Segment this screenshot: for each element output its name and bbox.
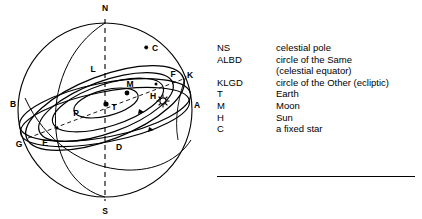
- legend-key: KLGD: [217, 77, 276, 89]
- legend-description: circle of the Same: [276, 54, 417, 66]
- celestial-sphere-diagram: N S A B L D K G F E P T M H C: [0, 0, 211, 219]
- legend-table: NS celestial pole ALBD circle of the Sam…: [217, 42, 417, 135]
- earth-marker-dot: [103, 101, 108, 106]
- legend-key: M: [217, 100, 276, 112]
- legend-description: (celestial equator): [276, 65, 417, 77]
- label-point-F: F: [170, 69, 175, 79]
- legend-description: celestial pole: [276, 42, 417, 54]
- legend-key: [217, 65, 276, 77]
- label-point-B: B: [10, 99, 16, 109]
- figure-root: N S A B L D K G F E P T M H C NS celesti…: [0, 0, 422, 219]
- label-point-H: H: [150, 91, 156, 101]
- label-point-T: T: [111, 102, 117, 112]
- fixed-star-marker: [144, 45, 148, 49]
- moon-marker-dot: [125, 91, 130, 96]
- label-point-N: N: [102, 3, 108, 13]
- legend-row: KLGD circle of the Other (ecliptic): [217, 77, 417, 89]
- legend-description: Sun: [276, 112, 417, 124]
- label-point-L: L: [90, 64, 95, 74]
- legend-row: NS celestial pole: [217, 42, 417, 54]
- label-point-M: M: [126, 79, 133, 89]
- label-point-C: C: [152, 43, 158, 53]
- legend-row: ALBD circle of the Same: [217, 54, 417, 66]
- label-point-P: P: [73, 108, 79, 118]
- legend-row: H Sun: [217, 112, 417, 124]
- legend-row: T Earth: [217, 88, 417, 100]
- ecliptic-direction-arrow: [148, 127, 154, 132]
- legend-bottom-rule: [217, 176, 415, 177]
- meridian-arc: [55, 23, 105, 197]
- legend-key: NS: [217, 42, 276, 54]
- legend-row: (celestial equator): [217, 65, 417, 77]
- legend-row: C a fixed star: [217, 123, 417, 135]
- node-dot-left: [56, 127, 59, 130]
- legend-key: ALBD: [217, 54, 276, 66]
- legend-key: H: [217, 112, 276, 124]
- label-point-E: E: [42, 138, 48, 148]
- legend-description: circle of the Other (ecliptic): [276, 77, 417, 89]
- legend-description: Earth: [276, 88, 417, 100]
- label-point-G: G: [16, 139, 23, 149]
- legend-key: T: [217, 88, 276, 100]
- label-point-K: K: [187, 70, 194, 80]
- legend-key: C: [217, 123, 276, 135]
- label-point-D: D: [116, 142, 122, 152]
- sphere-svg: N S A B L D K G F E P T M H C: [0, 0, 211, 219]
- legend-panel: NS celestial pole ALBD circle of the Sam…: [211, 0, 422, 219]
- sun-marker-starburst: [157, 95, 170, 108]
- legend-row: M Moon: [217, 100, 417, 112]
- label-point-A: A: [194, 100, 200, 110]
- legend-description: a fixed star: [276, 123, 417, 135]
- legend-description: Moon: [276, 100, 417, 112]
- label-point-S: S: [102, 206, 108, 216]
- node-dot-right: [155, 83, 158, 86]
